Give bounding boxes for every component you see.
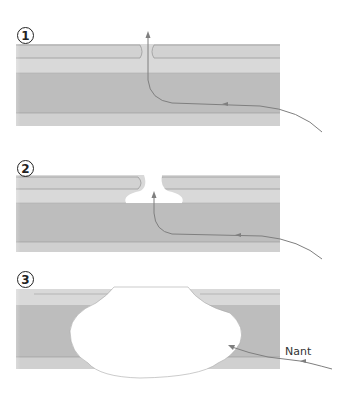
step-3-cross-section [0, 265, 344, 403]
step-1-panel: 1 [0, 0, 344, 135]
step-1-cross-section [0, 0, 344, 135]
nant-label: Nant [285, 345, 311, 358]
step-2-cross-section [0, 135, 344, 265]
step-number-1: 1 [17, 27, 34, 44]
step-number-2: 2 [17, 160, 34, 177]
step-number-3: 3 [17, 271, 34, 288]
step-3-panel: 3 Nant [0, 265, 344, 403]
step-2-panel: 2 [0, 135, 344, 265]
